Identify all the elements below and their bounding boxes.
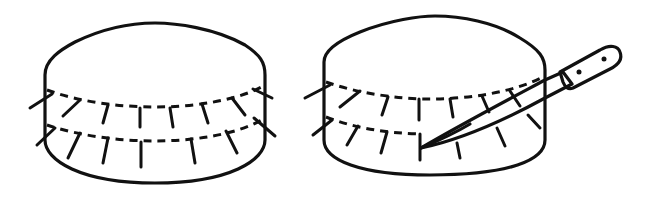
cut-line-lower [47, 118, 265, 141]
toothpicks-upper [305, 85, 520, 120]
cake-left [30, 23, 275, 183]
cut-line-lower [326, 117, 420, 134]
cut-line-upper [47, 85, 265, 107]
toothpicks-lower [313, 115, 540, 160]
cake-right [305, 16, 621, 175]
illustration: Cake with two rings of toothpicks markin… [0, 0, 650, 198]
toothpicks-lower [37, 118, 275, 167]
